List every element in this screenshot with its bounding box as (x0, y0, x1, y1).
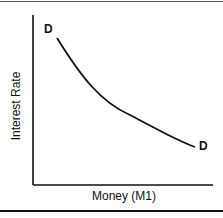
diagram-canvas (0, 0, 223, 218)
curve-start-label: D (44, 22, 53, 36)
y-axis-label: Interest Rate (9, 69, 23, 143)
curve-end-label: D (199, 139, 208, 153)
demand-curve (57, 38, 195, 147)
bottom-rule (0, 210, 223, 212)
x-axis-label: Money (M1) (84, 189, 164, 203)
